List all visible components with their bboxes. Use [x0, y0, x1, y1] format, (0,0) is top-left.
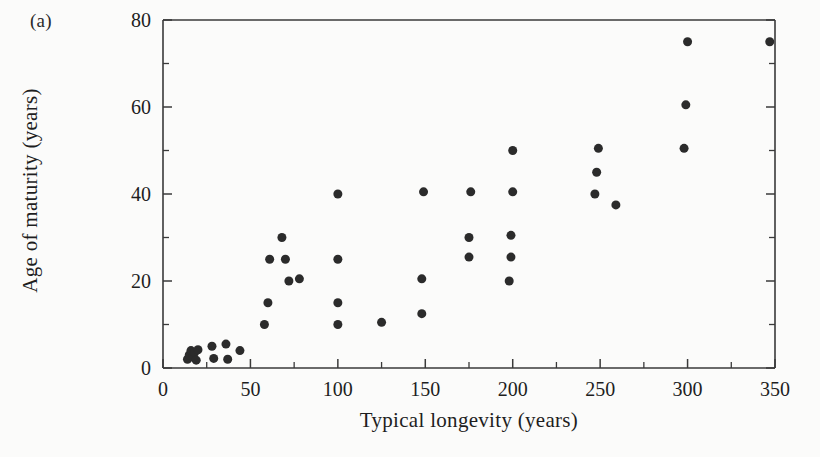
data-point	[594, 144, 603, 153]
data-point	[590, 190, 599, 199]
data-point	[505, 277, 514, 286]
data-point	[377, 318, 386, 327]
scatter-plot: 020406080050100150200250300350	[0, 0, 820, 457]
x-tick-label: 150	[410, 378, 440, 400]
data-point	[506, 231, 515, 240]
x-tick-label: 250	[585, 378, 615, 400]
data-point	[508, 146, 517, 155]
x-tick-label: 100	[323, 378, 353, 400]
y-tick-label: 80	[131, 9, 151, 31]
data-point	[465, 253, 474, 262]
data-point	[506, 253, 515, 262]
axis-tick-labels-group: 020406080050100150200250300350	[131, 9, 790, 400]
data-point	[680, 144, 689, 153]
data-point	[260, 320, 269, 329]
y-tick-label: 20	[131, 270, 151, 292]
data-point	[235, 346, 244, 355]
x-tick-label: 50	[240, 378, 260, 400]
data-point	[277, 233, 286, 242]
data-point	[295, 274, 304, 283]
data-point	[611, 200, 620, 209]
data-point	[223, 355, 232, 364]
y-tick-label: 60	[131, 96, 151, 118]
data-point	[207, 342, 216, 351]
data-point	[221, 340, 230, 349]
data-point	[209, 354, 218, 363]
data-point	[333, 255, 342, 264]
data-point	[192, 356, 201, 365]
figure-panel-a: (a) Age of maturity (years) Typical long…	[0, 0, 820, 457]
data-point	[417, 274, 426, 283]
data-point	[466, 187, 475, 196]
data-point	[333, 320, 342, 329]
data-point	[284, 277, 293, 286]
y-tick-label: 0	[141, 357, 151, 379]
data-point	[281, 255, 290, 264]
x-tick-label: 300	[673, 378, 703, 400]
data-point	[333, 298, 342, 307]
data-points-group	[183, 37, 774, 364]
y-tick-label: 40	[131, 183, 151, 205]
data-point	[765, 37, 774, 46]
data-point	[465, 233, 474, 242]
data-point	[681, 100, 690, 109]
data-point	[592, 168, 601, 177]
data-point	[417, 309, 426, 318]
data-point	[333, 190, 342, 199]
data-point	[508, 187, 517, 196]
x-tick-label: 200	[498, 378, 528, 400]
data-point	[683, 37, 692, 46]
data-point	[265, 255, 274, 264]
data-point	[193, 345, 202, 354]
data-point	[263, 298, 272, 307]
x-tick-label: 0	[158, 378, 168, 400]
x-tick-label: 350	[760, 378, 790, 400]
data-point	[419, 187, 428, 196]
